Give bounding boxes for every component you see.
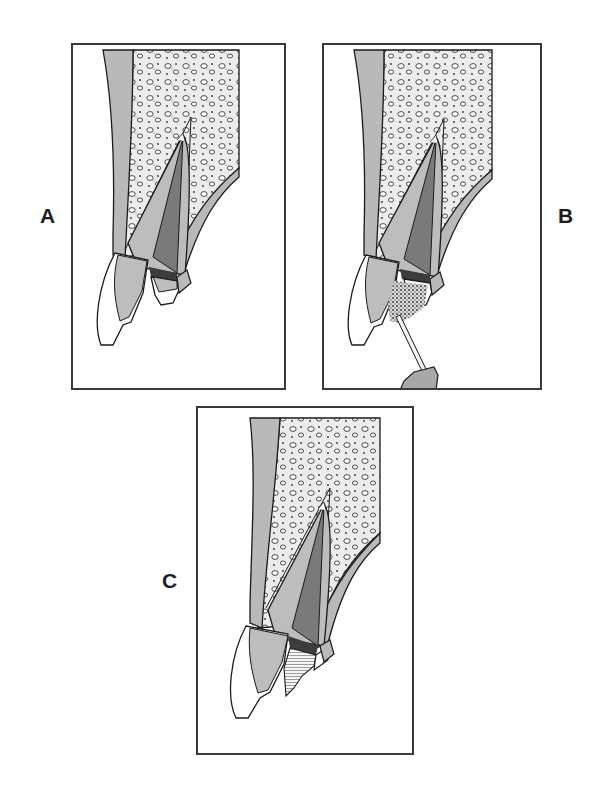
panel-label-b: B — [558, 205, 573, 226]
panel-label-c: C — [162, 570, 177, 591]
tooth-illustration-a — [73, 45, 286, 390]
panel-label-a: A — [40, 205, 55, 226]
panel-c — [196, 406, 414, 755]
tooth-illustration-c — [198, 408, 414, 755]
panel-a — [71, 43, 286, 390]
tooth-illustration-b — [324, 45, 542, 390]
panel-b — [322, 43, 542, 390]
